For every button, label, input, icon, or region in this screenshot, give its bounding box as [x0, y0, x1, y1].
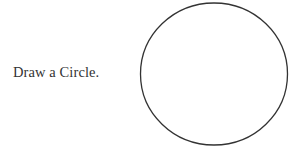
drawn-circle — [141, 3, 288, 145]
circle-canvas[interactable] — [0, 0, 301, 159]
